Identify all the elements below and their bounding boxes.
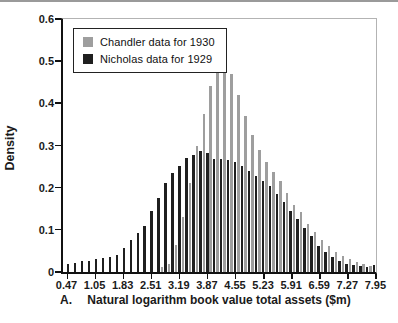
histogram-bar-chandler [216, 70, 219, 272]
histogram-bar-chandler [251, 135, 254, 272]
y-tick [55, 60, 61, 62]
plot-area: 00.10.20.30.40.50.6 0.471.051.832.513.19… [61, 18, 377, 274]
histogram-bar-chandler [209, 86, 212, 272]
y-tick-label: 0.3 [26, 141, 54, 152]
y-axis-label: Density [3, 88, 17, 208]
legend-label-chandler: Chandler data for 1930 [100, 36, 215, 48]
x-axis-label: Natural logarithm book value total asset… [61, 293, 377, 307]
histogram-bar-chandler [314, 232, 317, 272]
histogram-bar-chandler [362, 264, 365, 272]
histogram-bin [320, 19, 327, 272]
histogram-bar-chandler [189, 183, 192, 272]
histogram-bin [279, 19, 286, 272]
histogram-bar-chandler [244, 116, 247, 272]
histogram-bar-chandler [307, 224, 310, 272]
histogram-bin [286, 19, 293, 272]
histogram-bar-chandler [286, 193, 289, 272]
histogram-bar-chandler [230, 74, 233, 272]
y-tick-label: 0.5 [26, 56, 54, 67]
legend-label-nicholas: Nicholas data for 1929 [100, 53, 212, 65]
histogram-bin [327, 19, 334, 272]
x-tick-label: 7.95 [358, 279, 392, 291]
y-tick [55, 229, 61, 231]
histogram-bin [369, 19, 376, 272]
histogram-bin [313, 19, 320, 272]
legend-swatch-chandler [83, 37, 93, 47]
y-tick-label: 0.6 [26, 14, 54, 25]
y-tick-label: 0 [26, 267, 54, 278]
histogram-bar-chandler [279, 181, 282, 272]
histogram-bar-chandler [321, 240, 324, 272]
x-axis-caption-row: A. Natural logarithm book value total as… [0, 293, 398, 309]
histogram-bin [334, 19, 341, 272]
y-tick-label: 0.2 [26, 183, 54, 194]
histogram-bin [63, 19, 70, 272]
histogram-bin [230, 19, 237, 272]
histogram-bin [306, 19, 313, 272]
y-tick-label: 0.1 [26, 225, 54, 236]
page-edge-artifact [0, 0, 398, 2]
histogram-bar-chandler [293, 205, 296, 272]
histogram-bar-chandler [237, 95, 240, 272]
histogram-bar-chandler [356, 262, 359, 272]
histogram-bar-chandler [349, 259, 352, 272]
histogram-bar-chandler [161, 267, 164, 272]
histogram-bin [355, 19, 362, 272]
histogram-bar-chandler [182, 217, 185, 272]
histogram-bar-chandler [258, 150, 261, 272]
histogram-bin [362, 19, 369, 272]
histogram-bin [272, 19, 279, 272]
histogram-bar-chandler [328, 246, 331, 272]
histogram-bar-chandler [196, 146, 199, 273]
histogram-figure: Density 00.10.20.30.40.50.6 0.471.051.83… [0, 0, 398, 323]
y-tick [55, 145, 61, 147]
legend-item-chandler: Chandler data for 1930 [83, 36, 215, 48]
histogram-bin [299, 19, 306, 272]
y-axis-label-wrap: Density [2, 88, 18, 208]
y-tick [55, 18, 61, 20]
histogram-bar-nicholas [373, 265, 376, 272]
histogram-bin [341, 19, 348, 272]
histogram-bin [237, 19, 244, 272]
histogram-bar-chandler [265, 162, 268, 272]
histogram-bar-chandler [168, 264, 171, 272]
legend-item-nicholas: Nicholas data for 1929 [83, 53, 215, 65]
y-tick [55, 187, 61, 189]
histogram-bin [292, 19, 299, 272]
y-tick-label: 0.4 [26, 98, 54, 109]
histogram-bar-chandler [203, 114, 206, 272]
legend: Chandler data for 1930 Nicholas data for… [73, 28, 227, 73]
histogram-bin [258, 19, 265, 272]
histogram-bar-chandler [272, 172, 275, 272]
histogram-bar-chandler [342, 256, 345, 272]
histogram-bin [251, 19, 258, 272]
histogram-bar-chandler [223, 65, 226, 272]
histogram-bin [348, 19, 355, 272]
histogram-bar-chandler [335, 252, 338, 272]
histogram-bar-chandler [300, 212, 303, 272]
y-tick [55, 271, 61, 273]
legend-swatch-nicholas [83, 54, 93, 64]
histogram-bin [265, 19, 272, 272]
histogram-bar-chandler [175, 245, 178, 272]
y-tick [55, 102, 61, 104]
histogram-bar-chandler [369, 266, 372, 272]
histogram-bin [244, 19, 251, 272]
